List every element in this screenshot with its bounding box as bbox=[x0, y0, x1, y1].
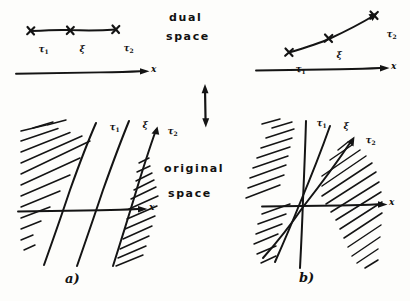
dual-left-x-axis-arrowhead bbox=[140, 68, 150, 74]
original-right-x-axis bbox=[262, 204, 378, 206]
original-left-line-tau2 bbox=[113, 130, 156, 266]
original-space-label-line1: original bbox=[164, 163, 224, 175]
original-right-line-tau2 bbox=[263, 140, 352, 258]
dual-right-x-axis-arrowhead bbox=[380, 65, 390, 71]
dual-left-label-tau1: τ1 bbox=[26, 36, 49, 65]
dual-left-segment bbox=[31, 30, 116, 31]
original-right-label-tau2: τ2 bbox=[353, 127, 376, 156]
panel-dual-right bbox=[256, 12, 390, 72]
figure-canvas: τ1 ξ τ2 x τ1 ξ τ2 x dual space original … bbox=[0, 0, 410, 301]
dual-right-axis-label: x bbox=[391, 62, 396, 71]
dual-left-x-axis bbox=[16, 71, 140, 74]
original-right-label-tau1: τ1 bbox=[304, 110, 327, 139]
original-left-x-axis bbox=[18, 209, 138, 212]
connector-shaft bbox=[205, 88, 206, 123]
original-right-x-axis-arrowhead bbox=[378, 201, 388, 207]
dual-left-label-tau2: τ2 bbox=[111, 35, 134, 64]
panel-caption-b: b) bbox=[299, 271, 314, 285]
dual-space-label-line1: dual bbox=[169, 12, 202, 24]
panel-caption-a: a) bbox=[65, 272, 80, 286]
original-left-label-tau1: τ1 bbox=[97, 114, 120, 143]
sketch-vector-layer bbox=[0, 0, 410, 301]
dual-left-axis-label: x bbox=[151, 65, 156, 74]
original-left-axis-label: x bbox=[149, 203, 154, 212]
original-space-label-line2: space bbox=[168, 188, 212, 200]
connector-arrowhead-down bbox=[202, 118, 209, 127]
dual-left-label-xi: ξ bbox=[67, 36, 85, 64]
dual-space-label-line2: space bbox=[166, 31, 210, 43]
dual-right-label-tau2: τ2 bbox=[374, 21, 397, 50]
dual-original-connector-arrow bbox=[202, 84, 210, 128]
dual-right-x-axis bbox=[256, 68, 380, 71]
original-left-label-xi: ξ bbox=[130, 112, 148, 140]
dual-right-label-xi: ξ bbox=[324, 42, 342, 70]
dual-right-label-tau1: τ1 bbox=[283, 56, 306, 85]
original-left-label-tau2: τ2 bbox=[155, 118, 178, 147]
original-right-hatch-upper-left bbox=[246, 119, 294, 198]
original-right-axis-label: x bbox=[389, 198, 394, 207]
panel-original-left bbox=[18, 120, 159, 266]
original-right-label-xi: ξ bbox=[331, 113, 349, 141]
connector-arrowhead-up bbox=[202, 84, 209, 93]
